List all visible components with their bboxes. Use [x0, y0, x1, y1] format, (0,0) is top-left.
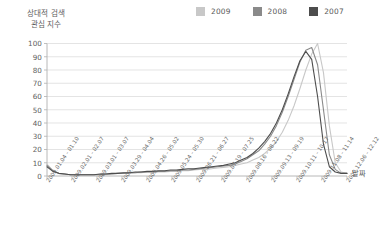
y-tick-label-0: 0 [20, 172, 42, 181]
y-tick-label-70: 70 [20, 79, 42, 88]
y-tick-label-80: 80 [20, 66, 42, 75]
y-tick-label-40: 40 [20, 119, 42, 128]
y-tick-label-30: 30 [20, 132, 42, 141]
y-tick-label-90: 90 [20, 53, 42, 62]
y-tick-label-100: 100 [20, 39, 42, 48]
y-tick-label-10: 10 [20, 159, 42, 168]
y-tick-label-20: 20 [20, 145, 42, 154]
x-axis-title: 날짜 [352, 168, 366, 178]
y-tick-label-50: 50 [20, 106, 42, 115]
y-tick-label-60: 60 [20, 92, 42, 101]
